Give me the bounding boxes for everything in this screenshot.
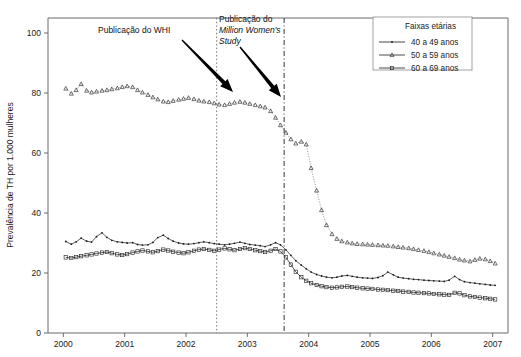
x-tick-label: 2007 [483,339,502,349]
marker-dot [249,244,251,246]
marker-dot [356,276,358,278]
marker-dot [484,284,486,286]
marker-dot [438,280,440,282]
x-tick-label: 2000 [54,339,73,349]
marker-dot [96,236,98,238]
marker-dot [254,244,256,246]
marker-dot [270,244,272,246]
marker-dot [239,241,241,243]
marker-dot [316,274,318,276]
legend-label: 50 a 59 anos [411,51,458,60]
marker-dot [341,275,343,277]
x-tick-label: 2005 [361,339,380,349]
marker-dot [167,238,169,240]
marker-dot [372,278,374,280]
marker-dot [126,242,128,244]
marker-dot [70,243,72,245]
marker-dot [408,278,410,280]
marker-dot [397,276,399,278]
y-tick-label: 40 [32,208,42,218]
marker-dot [479,283,481,285]
x-tick-label: 2001 [115,339,134,349]
marker-dot [295,260,297,262]
marker-dot [203,241,205,243]
marker-dot [305,268,307,270]
marker-dot [387,271,389,273]
marker-dot [116,241,118,243]
marker-dot [142,244,144,246]
marker-dot [392,274,394,276]
marker-dot [244,242,246,244]
marker-dot [193,243,195,245]
marker-dot [152,242,154,244]
marker-dot [464,281,466,283]
marker-dot [147,244,149,246]
annotation-text: Publicação do WHI [98,25,170,35]
marker-dot [377,277,379,279]
marker-dot [494,284,496,286]
marker-dot [362,277,364,279]
marker-dot [80,237,82,239]
annotation-text: Publicação do [219,14,273,24]
marker-dot [443,281,445,283]
y-axis-title: Prevalência de TH por 1.000 mulheres [5,102,15,247]
marker-dot [106,236,108,238]
marker-dot [183,243,185,245]
marker-dot [132,242,134,244]
marker-dot [178,242,180,244]
marker-dot [413,278,415,280]
legend[interactable]: Faixas etárias40 a 49 anos50 a 59 anos60… [373,17,472,73]
marker-dot [336,276,338,278]
y-tick-label: 60 [32,148,42,158]
x-tick-label: 2006 [422,339,441,349]
marker-dot [454,275,456,277]
marker-dot [382,275,384,277]
marker-dot [367,277,369,279]
marker-dot [351,275,353,277]
marker-dot [428,280,430,282]
marker-dot [259,245,261,247]
marker-dot [224,244,226,246]
y-tick-label: 0 [36,328,41,338]
marker-dot [300,264,302,266]
annotation-text-italic: Million Women's [219,25,281,35]
marker-dot [198,242,200,244]
legend-label: 40 a 49 anos [411,38,458,47]
marker-dot [162,234,164,236]
marker-dot [65,241,67,243]
annotation-whi: Publicação do WHI [98,25,170,35]
marker-dot [111,239,113,241]
marker-dot [331,277,333,279]
marker-dot [310,271,312,273]
marker-dot [423,279,425,281]
marker-dot [489,284,491,286]
legend-label: 60 a 69 anos [411,64,458,73]
marker-dot [229,243,231,245]
marker-dot [275,242,277,244]
marker-dot [433,280,435,282]
marker-dot [459,279,461,281]
marker-dot [418,279,420,281]
marker-dot [188,243,190,245]
marker-dot [101,232,103,234]
chart-figure: 020406080100 200020012002200320042005200… [0,0,521,357]
marker-dot [321,275,323,277]
x-tick-label: 2002 [177,339,196,349]
marker-dot [264,246,266,248]
marker-dot [469,282,471,284]
y-tick-label: 100 [27,28,41,38]
marker-dot [346,275,348,277]
marker-dot [86,240,88,242]
marker-dot [218,243,220,245]
marker-dot [157,237,159,239]
marker-dot [75,241,77,243]
marker-dot [172,240,174,242]
x-tick-label: 2003 [238,339,257,349]
marker-dot [474,282,476,284]
marker-dot [448,279,450,281]
y-tick-label: 20 [32,268,42,278]
marker-dot [208,242,210,244]
marker-dot [280,244,282,246]
marker-dot [290,254,292,256]
marker-dot [402,277,404,279]
